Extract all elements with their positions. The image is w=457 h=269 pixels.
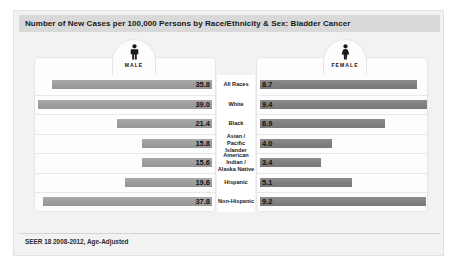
male-bar: 15.8 xyxy=(142,139,212,148)
female-bar-cell: 9.2 xyxy=(257,192,427,212)
chart-row: 39.0White9.4 xyxy=(14,95,445,115)
male-figure-icon xyxy=(129,44,140,60)
female-legend-label: FEMALE xyxy=(331,62,358,68)
female-value-label: 4.0 xyxy=(262,139,272,148)
chart-row: 15.8Asian / Pacific Islander4.0 xyxy=(14,134,445,154)
source-note: SEER 18 2008-2012, Age-Adjusted xyxy=(25,238,128,245)
category-label-cell: Black xyxy=(217,114,255,134)
page-title: Number of New Cases per 100,000 Persons … xyxy=(25,19,350,28)
female-value-label: 9.2 xyxy=(262,197,272,206)
footer-divider xyxy=(19,233,440,234)
chart-row: 21.4Black6.9 xyxy=(14,114,445,134)
male-value-label: 19.6 xyxy=(195,178,210,187)
female-value-label: 8.7 xyxy=(262,80,272,89)
female-bar-cell: 9.4 xyxy=(257,95,427,115)
male-bar-cell: 35.8 xyxy=(35,75,215,95)
male-value-label: 35.8 xyxy=(195,80,210,89)
male-bar-cell: 37.8 xyxy=(35,192,215,212)
male-bar: 35.8 xyxy=(52,80,212,89)
female-value-label: 3.4 xyxy=(262,158,272,167)
category-label: Asian / Pacific Islander xyxy=(217,133,255,154)
category-label: Non-Hispanic xyxy=(218,198,254,205)
male-value-label: 21.4 xyxy=(195,119,210,128)
female-value-label: 5.1 xyxy=(262,178,272,187)
male-bar: 19.6 xyxy=(125,178,212,187)
female-bar: 3.4 xyxy=(260,158,321,167)
category-label-cell: Non-Hispanic xyxy=(217,192,255,212)
chart-plot-area: MALE FEMALE 35.8All Races8.739.0White9.4… xyxy=(14,39,445,229)
female-bar: 9.2 xyxy=(260,197,426,206)
category-label: Black xyxy=(229,120,244,127)
female-bar-cell: 8.7 xyxy=(257,75,427,95)
chart-card: Number of New Cases per 100,000 Persons … xyxy=(13,10,444,256)
category-label: American Indian / Alaska Native xyxy=(217,152,255,173)
male-bar-cell: 19.6 xyxy=(35,173,215,193)
chart-row: 35.8All Races8.7 xyxy=(14,75,445,95)
chart-title-bar: Number of New Cases per 100,000 Persons … xyxy=(19,15,440,32)
male-bar: 21.4 xyxy=(117,119,212,128)
category-label: White xyxy=(228,101,243,108)
chart-row: 19.6Hispanic5.1 xyxy=(14,173,445,193)
category-label-cell: American Indian / Alaska Native xyxy=(217,153,255,173)
male-value-label: 37.8 xyxy=(195,197,210,206)
female-bar-cell: 4.0 xyxy=(257,134,427,154)
male-value-label: 15.8 xyxy=(195,139,210,148)
male-bar-cell: 39.0 xyxy=(35,95,215,115)
category-label-cell: All Races xyxy=(217,75,255,95)
male-bar-cell: 15.6 xyxy=(35,153,215,173)
chart-row: 37.8Non-Hispanic9.2 xyxy=(14,192,445,212)
female-figure-icon xyxy=(340,44,351,60)
category-label-cell: White xyxy=(217,95,255,115)
male-bar: 39.0 xyxy=(38,100,212,109)
male-bar: 37.8 xyxy=(43,197,212,206)
category-label: Hispanic xyxy=(224,179,247,186)
category-label-cell: Asian / Pacific Islander xyxy=(217,134,255,154)
category-label-cell: Hispanic xyxy=(217,173,255,193)
chart-rows: 35.8All Races8.739.0White9.421.4Black6.9… xyxy=(14,75,445,212)
male-bar-cell: 15.8 xyxy=(35,134,215,154)
category-label: All Races xyxy=(223,81,248,88)
female-legend-badge: FEMALE xyxy=(323,39,367,75)
male-bar-cell: 21.4 xyxy=(35,114,215,134)
female-bar-cell: 5.1 xyxy=(257,173,427,193)
female-bar: 4.0 xyxy=(260,139,332,148)
female-bar: 5.1 xyxy=(260,178,352,187)
male-value-label: 39.0 xyxy=(195,100,210,109)
chart-row: 15.6American Indian / Alaska Native3.4 xyxy=(14,153,445,173)
female-value-label: 6.9 xyxy=(262,119,272,128)
male-value-label: 15.6 xyxy=(195,158,210,167)
female-value-label: 9.4 xyxy=(262,100,272,109)
male-bar: 15.6 xyxy=(142,158,212,167)
female-bar-cell: 3.4 xyxy=(257,153,427,173)
female-bar: 6.9 xyxy=(260,119,385,128)
female-bar: 8.7 xyxy=(260,80,417,89)
male-legend-badge: MALE xyxy=(112,39,156,75)
female-bar: 9.4 xyxy=(260,100,427,109)
male-legend-label: MALE xyxy=(125,62,144,68)
female-bar-cell: 6.9 xyxy=(257,114,427,134)
